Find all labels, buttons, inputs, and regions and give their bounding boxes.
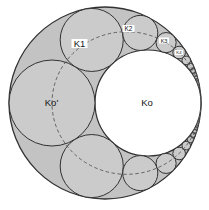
chain-circle-n2-mirror xyxy=(123,156,158,191)
label-ko: Ko xyxy=(141,97,153,108)
figure-container: K1K2K3K4Ko'Ko xyxy=(0,0,209,210)
chain-circle-n14-mirror xyxy=(198,119,199,120)
label-ko-prime: Ko' xyxy=(45,97,59,108)
label-k1: K1 xyxy=(74,38,86,49)
label-k4: K4 xyxy=(176,50,182,55)
label-k2: K2 xyxy=(125,25,133,32)
label-k3: K3 xyxy=(161,38,168,44)
pappus-chain-figure: K1K2K3K4Ko'Ko xyxy=(0,0,209,210)
